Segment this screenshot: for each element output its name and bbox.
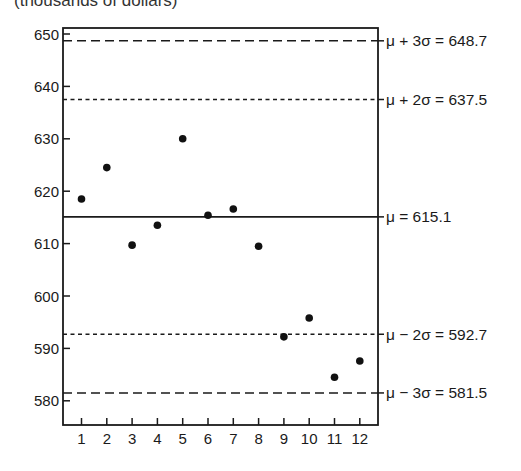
reference-label-mu-plus-3sigma: μ + 3σ = 648.7 [386,32,487,49]
y-tick-label: 650 [34,26,59,43]
x-tick-label: 9 [280,430,288,447]
x-tick-label: 12 [351,430,368,447]
data-point [78,195,86,203]
y-tick-label: 600 [34,288,59,305]
chart-canvas: 580590600610620630640650 123456789101112… [0,0,521,471]
x-tick-label: 5 [179,430,187,447]
reference-label-mu: μ = 615.1 [386,208,451,225]
y-tick-label: 610 [34,235,59,252]
data-point [179,135,187,143]
data-point [154,221,162,229]
data-point [128,241,136,249]
data-point [230,205,238,213]
x-tick-label: 11 [327,430,343,447]
x-tick-label: 6 [204,430,212,447]
plot-frame [63,28,378,425]
x-tick-label: 4 [153,430,161,447]
y-tick-label: 630 [34,130,59,147]
plot-border [63,28,378,425]
data-point [103,164,111,172]
reference-line-labels: μ + 3σ = 648.7μ + 2σ = 637.5μ = 615.1μ −… [378,32,487,401]
x-axis: 123456789101112 [77,418,368,447]
y-axis-unit-label: (thousands of dollars) [14,0,177,11]
data-point [255,242,263,250]
control-chart: (thousands of dollars) 58059060061062063… [0,0,521,471]
data-points [78,135,364,381]
x-tick-label: 1 [77,430,85,447]
data-point [305,314,313,322]
reference-label-mu-plus-2sigma: μ + 2σ = 637.5 [386,91,487,108]
data-point [280,333,288,341]
data-point [331,373,339,381]
reference-lines [63,41,378,393]
y-tick-label: 640 [34,78,59,95]
y-tick-label: 620 [34,183,59,200]
reference-label-mu-minus-2sigma: μ − 2σ = 592.7 [386,326,487,343]
x-tick-label: 7 [229,430,237,447]
data-point [204,212,212,220]
x-tick-label: 10 [301,430,318,447]
x-tick-label: 3 [128,430,136,447]
data-point [356,357,364,365]
x-tick-label: 2 [103,430,111,447]
y-tick-label: 580 [34,392,59,409]
y-tick-label: 590 [34,340,59,357]
x-tick-label: 8 [254,430,262,447]
reference-label-mu-minus-3sigma: μ − 3σ = 581.5 [386,384,487,401]
